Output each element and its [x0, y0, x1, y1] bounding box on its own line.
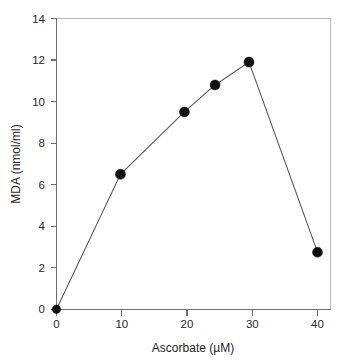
y-tick-label-0: 0	[39, 303, 45, 315]
y-axis-ticks	[51, 19, 57, 310]
x-tick-label-10: 10	[115, 318, 128, 330]
chart-canvas: 14 12 10 8 6 4 2 0 MDA (nmol/ml) 0	[0, 0, 349, 364]
x-tick-label-30: 30	[246, 318, 259, 330]
y-axis: 14 12 10 8 6 4 2 0 MDA (nmol/ml)	[9, 13, 57, 316]
y-tick-label-6: 6	[39, 179, 45, 191]
y-axis-title: MDA (nmol/ml)	[9, 124, 23, 203]
y-axis-tick-labels: 14 12 10 8 6 4 2 0	[32, 13, 45, 316]
data-point	[179, 107, 189, 117]
y-tick-label-4: 4	[39, 220, 46, 232]
chart-figure: 14 12 10 8 6 4 2 0 MDA (nmol/ml) 0	[0, 0, 349, 364]
data-point	[52, 305, 60, 313]
data-line	[57, 62, 318, 309]
y-tick-label-10: 10	[32, 96, 45, 108]
data-markers	[52, 57, 322, 313]
x-axis-title: Ascorbate (µM)	[152, 341, 234, 355]
x-axis: 0 10 20 30 40 Ascorbate (µM)	[53, 310, 330, 356]
data-point	[313, 247, 323, 257]
x-tick-label-0: 0	[53, 318, 59, 330]
data-point	[244, 57, 254, 67]
y-tick-label-14: 14	[32, 13, 45, 25]
data-point	[210, 80, 220, 90]
plot-frame	[57, 19, 331, 310]
y-tick-label-8: 8	[39, 137, 45, 149]
y-tick-label-12: 12	[32, 54, 45, 66]
x-tick-label-20: 20	[181, 318, 194, 330]
x-axis-ticks	[57, 310, 318, 316]
data-series-mda	[52, 57, 322, 313]
x-axis-tick-labels: 0 10 20 30 40	[53, 318, 324, 330]
data-point	[115, 169, 125, 179]
x-tick-label-40: 40	[311, 318, 324, 330]
y-tick-label-2: 2	[39, 262, 45, 274]
